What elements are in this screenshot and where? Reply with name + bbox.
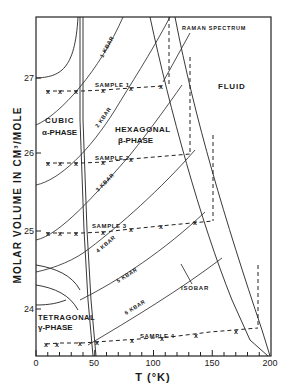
svg-text:x: x xyxy=(78,340,82,347)
hexagonal-label: HEXAGONAL xyxy=(115,125,171,134)
svg-text:x: x xyxy=(58,230,62,237)
sample-1-label: SAMPLE 1 xyxy=(95,82,130,88)
sample-2-label: SAMPLE 2 xyxy=(95,155,130,161)
tetragonal-label: TETRAGONAL xyxy=(38,313,95,322)
y-tick-27: 27 xyxy=(24,73,34,83)
svg-text:x: x xyxy=(159,223,163,230)
x-tick-0: 0 xyxy=(33,358,38,368)
svg-text:x: x xyxy=(130,337,134,344)
svg-text:x: x xyxy=(194,332,198,339)
svg-text:x: x xyxy=(193,219,197,226)
y-axis-label: MOLAR VOLUME IN CM³/MOLE xyxy=(12,106,23,283)
beta-phase-label: β-PHASE xyxy=(118,136,154,145)
x-tick-100: 100 xyxy=(145,358,160,368)
sample-3-label: SAMPLE 3 xyxy=(92,223,127,229)
svg-text:x: x xyxy=(58,88,62,95)
svg-text:x: x xyxy=(129,226,133,233)
svg-text:x: x xyxy=(101,229,105,236)
phase-diagram: 0 50 100 150 200 T (°K) 27 26 25 24 MOLA… xyxy=(0,0,293,387)
isobar-annotation: ISOBAR xyxy=(181,285,209,291)
gamma-phase-label: γ-PHASE xyxy=(38,323,73,332)
x-tick-50: 50 xyxy=(89,358,99,368)
svg-text:x: x xyxy=(74,88,78,95)
svg-text:x: x xyxy=(159,83,163,90)
svg-text:x: x xyxy=(95,339,99,346)
svg-text:x: x xyxy=(46,160,50,167)
cubic-label: CUBIC xyxy=(45,116,74,125)
y-tick-25: 25 xyxy=(24,226,34,236)
svg-text:x: x xyxy=(234,328,238,335)
svg-text:x: x xyxy=(58,160,62,167)
svg-text:x: x xyxy=(46,88,50,95)
sample-4-label: SAMPLE 4 xyxy=(140,333,175,339)
x-tick-200: 200 xyxy=(262,358,277,368)
fluid-label: FLUID xyxy=(218,82,246,91)
svg-text:x: x xyxy=(46,230,50,237)
raman-spectrum-label: RAMAN SPECTRUM xyxy=(182,25,246,31)
y-tick-24: 24 xyxy=(24,304,34,314)
y-tick-26: 26 xyxy=(24,148,34,158)
alpha-phase-label: α-PHASE xyxy=(42,128,78,137)
svg-text:x: x xyxy=(55,341,59,348)
svg-text:x: x xyxy=(74,230,78,237)
x-tick-150: 150 xyxy=(204,358,219,368)
svg-text:x: x xyxy=(74,160,78,167)
x-axis-label: T (°K) xyxy=(135,371,170,383)
svg-text:x: x xyxy=(101,87,105,94)
svg-text:x: x xyxy=(44,341,48,348)
